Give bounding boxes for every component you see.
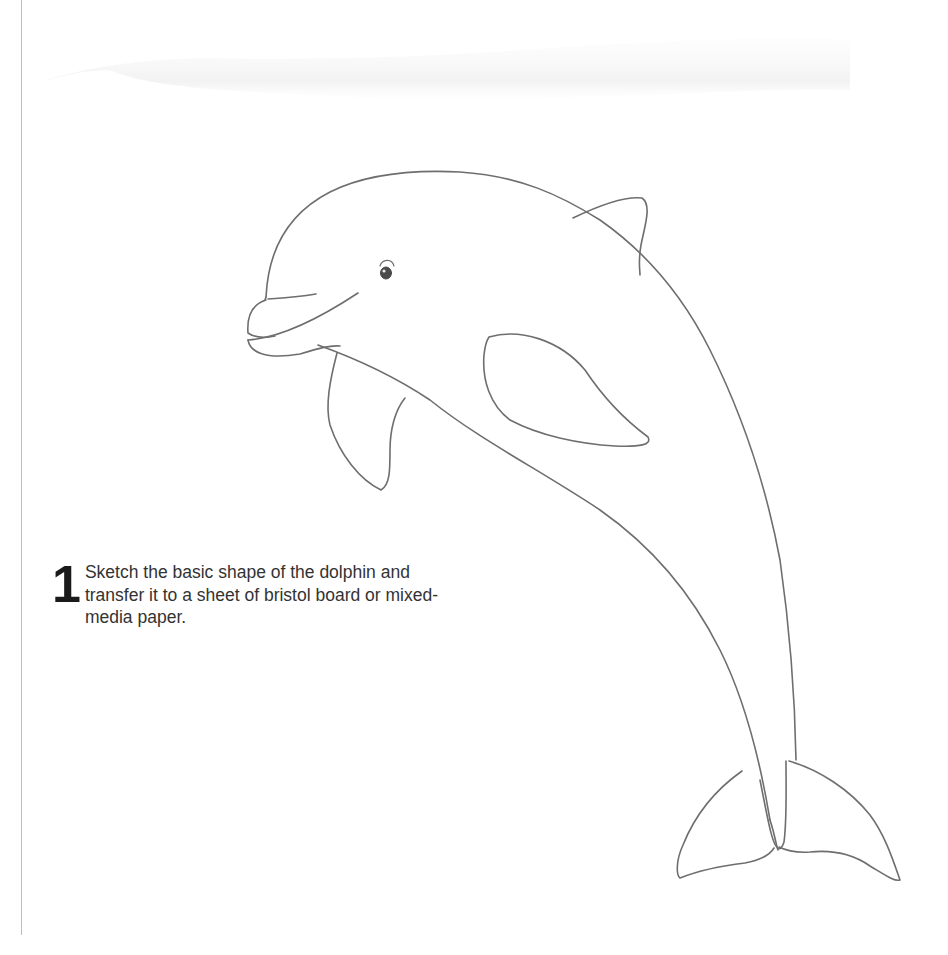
dolphin-tail-fluke-right	[779, 761, 900, 880]
dolphin-tail-fluke-left	[677, 771, 774, 878]
step-text: Sketch the basic shape of the dolphin an…	[85, 562, 438, 627]
dolphin-eye-highlight	[382, 269, 385, 272]
dolphin-pectoral-fin	[328, 353, 405, 490]
step-1-instruction: 1 Sketch the basic shape of the dolphin …	[51, 561, 471, 629]
dolphin-dorsal-fin	[573, 198, 647, 275]
dolphin-eyelid	[380, 260, 394, 266]
dolphin-beak-line	[268, 294, 316, 299]
book-page: 1 Sketch the basic shape of the dolphin …	[0, 0, 948, 955]
dolphin-sketch	[0, 0, 948, 955]
dolphin-side-marking	[484, 334, 649, 446]
dolphin-eye	[381, 267, 392, 279]
dolphin-back-outline	[266, 171, 796, 760]
dolphin-snout-top	[248, 300, 275, 337]
step-number: 1	[52, 563, 81, 607]
dolphin-tail-center	[760, 761, 786, 849]
